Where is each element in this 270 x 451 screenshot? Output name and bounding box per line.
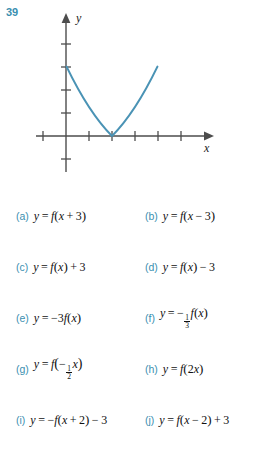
choice-a-tag: (a): [16, 210, 29, 222]
choice-a-expression: y=f(x+3): [34, 208, 86, 224]
choice-h-tag: (h): [145, 363, 158, 375]
choice-d-expression: y=f(x)−3: [163, 259, 215, 275]
choices-list: (a) y=f(x+3) (b) y=f(x−3) (c) y=f(x)+3 (…: [0, 190, 270, 445]
y-axis-label: y: [75, 11, 82, 25]
choice-g-expression: y=f(−12x): [34, 356, 83, 381]
choice-d-tag: (d): [145, 261, 158, 273]
x-axis-label: x: [203, 141, 210, 155]
choice-j[interactable]: (j) y=f(x−2)+3: [135, 394, 270, 445]
choice-b-tag: (b): [145, 210, 158, 222]
choice-g-tag: (g): [16, 363, 29, 375]
y-axis-arrowhead: [62, 13, 71, 23]
choice-f-tag: (f): [145, 312, 155, 324]
choice-c-tag: (c): [16, 261, 28, 273]
choice-e-tag: (e): [16, 312, 29, 324]
parabola-curve: [67, 67, 158, 137]
choice-g[interactable]: (g) y=f(−12x): [0, 343, 135, 394]
choice-c-expression: y=f(x)+3: [33, 259, 85, 275]
choice-d[interactable]: (d) y=f(x)−3: [135, 241, 270, 292]
choice-h[interactable]: (h) y=f(2x): [135, 343, 270, 394]
x-axis-arrowhead: [204, 132, 214, 141]
choice-f[interactable]: (f) y=−13f(x): [135, 292, 270, 343]
choice-i-expression: y=−f(x+2)−3: [30, 412, 107, 428]
choice-h-expression: y=f(2x): [163, 361, 203, 377]
choice-b[interactable]: (b) y=f(x−3): [135, 190, 270, 241]
choice-j-tag: (j): [145, 414, 154, 426]
choice-e-expression: y=−3f(x): [34, 310, 81, 326]
choice-j-expression: y=f(x−2)+3: [159, 412, 229, 428]
coordinate-plane: y x: [0, 0, 270, 185]
choice-f-expression: y=−13f(x): [160, 305, 208, 330]
choice-i-tag: (i): [16, 414, 25, 426]
choice-a[interactable]: (a) y=f(x+3): [0, 190, 135, 241]
choice-b-expression: y=f(x−3): [163, 208, 215, 224]
choice-c[interactable]: (c) y=f(x)+3: [0, 241, 135, 292]
choice-e[interactable]: (e) y=−3f(x): [0, 292, 135, 343]
graph-figure: y x: [0, 0, 270, 185]
choice-i[interactable]: (i) y=−f(x+2)−3: [0, 394, 135, 445]
